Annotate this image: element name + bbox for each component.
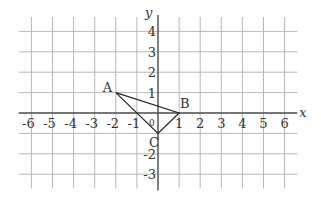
origin-label: 0 bbox=[149, 118, 155, 128]
x-axis-label: x bbox=[299, 105, 307, 120]
x-tick-label: 2 bbox=[196, 116, 204, 131]
x-tick-label: 3 bbox=[217, 116, 225, 131]
x-tick-label: -2 bbox=[106, 116, 119, 131]
triangle-abc: ABC bbox=[102, 80, 190, 151]
coordinate-grid-svg: -6-5-4-3-2-11234564321-2-3 ABC x y 0 bbox=[0, 0, 321, 199]
y-tick-label: 3 bbox=[148, 45, 156, 60]
x-tick-label: 6 bbox=[280, 116, 288, 131]
y-tick-label: 4 bbox=[148, 24, 156, 39]
x-tick-label: 1 bbox=[175, 116, 183, 131]
y-axis-label: y bbox=[144, 5, 153, 20]
x-tick-label: -4 bbox=[64, 116, 77, 131]
vertex-label-c: C bbox=[149, 135, 159, 150]
x-tick-label: -3 bbox=[85, 116, 98, 131]
vertex-label-a: A bbox=[102, 80, 113, 95]
y-tick-label: -3 bbox=[143, 167, 156, 182]
vertex-label-b: B bbox=[180, 96, 190, 111]
x-tick-label: 5 bbox=[259, 116, 267, 131]
axes bbox=[19, 15, 298, 190]
x-tick-label: -6 bbox=[22, 116, 35, 131]
x-tick-label: 4 bbox=[238, 116, 246, 131]
tick-labels: -6-5-4-3-2-11234564321-2-3 bbox=[22, 24, 289, 182]
x-tick-label: -1 bbox=[128, 116, 141, 131]
y-tick-label: 2 bbox=[148, 65, 156, 80]
coordinate-plane: -6-5-4-3-2-11234564321-2-3 ABC x y 0 bbox=[0, 0, 321, 199]
y-tick-label: 1 bbox=[148, 86, 156, 101]
x-tick-label: -5 bbox=[43, 116, 56, 131]
